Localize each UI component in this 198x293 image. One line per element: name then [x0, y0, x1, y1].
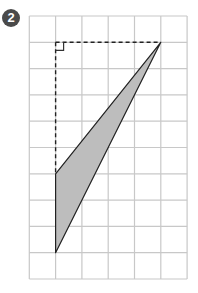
grid-diagram — [0, 0, 198, 293]
right-angle-marker — [56, 42, 64, 50]
